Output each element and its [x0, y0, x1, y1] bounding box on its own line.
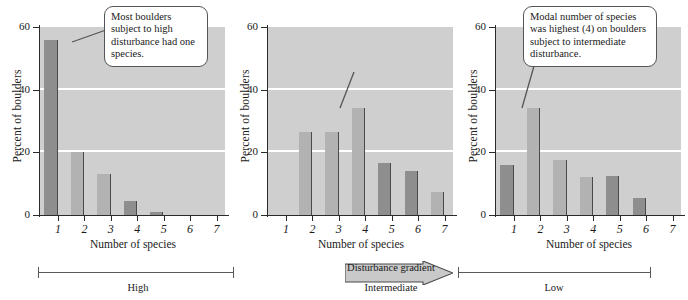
- gradient-cap-far-right: [650, 267, 651, 278]
- chart-panel-high-disturbance: Percent of boulders 0204060 1234567 Numb…: [0, 0, 232, 255]
- gradient-label-intermediate: Intermediate: [341, 282, 441, 293]
- callout-leader-2: [228, 0, 460, 255]
- gradient-cap-left-inner: [233, 267, 234, 278]
- gradient-cap-right-inner: [458, 267, 459, 278]
- gradient-arrow-label: Disturbance gradient: [345, 262, 437, 274]
- gradient-label-low: Low: [504, 282, 604, 293]
- gradient-cap-far-left: [38, 267, 39, 278]
- chart-panel-intermediate-disturbance: Percent of boulders 0204060 1234567 Numb…: [228, 0, 460, 255]
- disturbance-gradient-figure: Percent of boulders 0204060 1234567 Numb…: [0, 0, 688, 300]
- gradient-label-high: High: [88, 282, 188, 293]
- callout-high-disturbance: Most boulders subject to high disturbanc…: [104, 6, 208, 67]
- gradient-line-left: [38, 272, 234, 273]
- callout-intermediate-disturbance: Modal number of species was highest (4) …: [523, 6, 657, 67]
- gradient-line-right: [458, 272, 650, 273]
- disturbance-gradient-scale: Disturbance gradient High Intermediate L…: [0, 258, 688, 300]
